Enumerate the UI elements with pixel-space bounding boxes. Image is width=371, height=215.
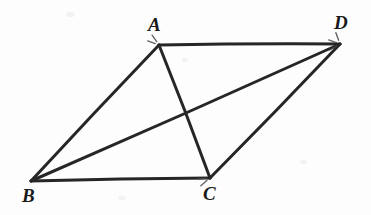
tick-mark-A bbox=[148, 41, 156, 44]
vertex-tick-marks bbox=[148, 33, 339, 186]
edges-group bbox=[31, 44, 340, 181]
edge-AD bbox=[159, 44, 340, 45]
vertex-label-C: C bbox=[203, 184, 216, 203]
tick-mark-A bbox=[152, 35, 157, 42]
edge-AC bbox=[159, 45, 210, 178]
tick-mark-D bbox=[329, 40, 337, 43]
tick-mark-C bbox=[198, 178, 206, 179]
vertex-label-A: A bbox=[148, 15, 161, 34]
vertex-label-D: D bbox=[334, 13, 348, 32]
edge-CD bbox=[210, 44, 340, 178]
diagram-canvas: A B C D bbox=[0, 0, 371, 215]
tick-mark-D bbox=[336, 33, 339, 41]
edge-BC bbox=[31, 178, 210, 181]
geometry-figure bbox=[0, 0, 371, 215]
vertex-label-B: B bbox=[22, 186, 35, 205]
edge-BD bbox=[31, 44, 340, 181]
edge-AB bbox=[31, 45, 159, 181]
